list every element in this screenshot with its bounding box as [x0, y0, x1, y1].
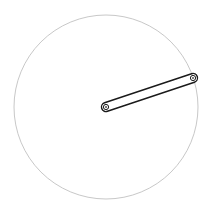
crank-link [100, 72, 198, 112]
link-bar [100, 72, 198, 112]
center-pivot-dot [105, 106, 107, 108]
end-pivot-dot [192, 77, 194, 79]
crank-diagram [0, 0, 209, 211]
